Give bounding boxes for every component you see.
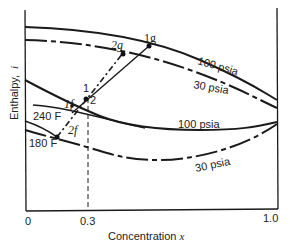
label-1: 1	[83, 82, 89, 94]
vapor-curve-30psia	[25, 40, 277, 108]
label-liquid-30psia: 30 psia	[194, 155, 232, 174]
label-2: 2	[90, 94, 96, 106]
point-2g	[121, 52, 126, 57]
right-axis	[277, 8, 278, 209]
x-tick-0-3: 0.3	[80, 215, 95, 227]
y-axis-label: Enthalpy,	[8, 75, 20, 120]
liquid-curve-100psia	[25, 80, 277, 130]
label-isotherm-180F: 180 F	[29, 137, 57, 149]
y-axis-symbol: i	[8, 66, 20, 69]
x-tick-0: 0	[25, 215, 31, 227]
x-axis-title: Concentration x	[108, 230, 185, 242]
label-2g: 2g	[111, 38, 123, 52]
x-axis-label: Concentration	[108, 230, 177, 242]
y-axis-title: Enthalpy, i	[8, 66, 20, 120]
x-axis-symbol: x	[179, 230, 185, 242]
point-1-2	[84, 97, 89, 102]
x-axis	[26, 209, 278, 211]
x-tick-1-0: 1.0	[263, 212, 278, 224]
label-liquid-100psia: 100 psia	[178, 118, 220, 130]
enthalpy-concentration-diagram: 1g 2g 1 2 1f 2f 100 psia 30 psia 100 psi…	[0, 0, 290, 244]
label-isotherm-240F: 240 F	[33, 110, 61, 122]
label-1g: 1g	[144, 31, 156, 45]
label-vapor-30psia: 30 psia	[193, 78, 231, 96]
label-2f: 2f	[68, 123, 79, 137]
